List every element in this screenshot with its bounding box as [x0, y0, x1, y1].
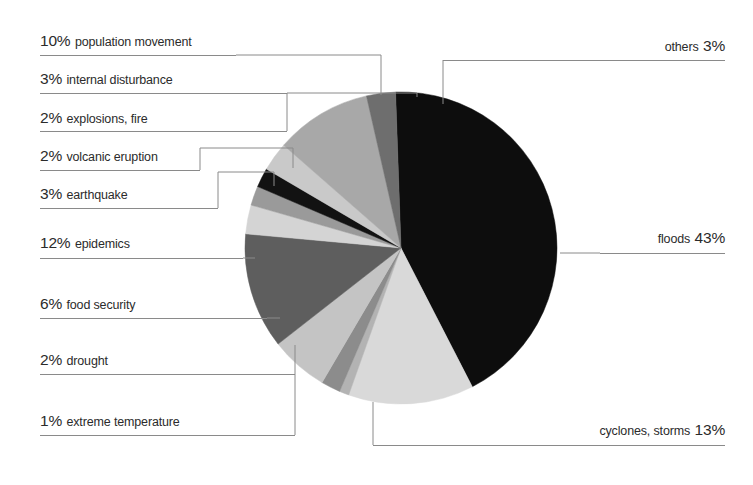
slice-percent: 3% — [40, 70, 62, 87]
slice-name: population movement — [75, 35, 192, 49]
leader-rule-internal-disturbance — [40, 93, 287, 94]
slice-name: others — [665, 40, 699, 54]
slice-percent: 2% — [40, 351, 62, 368]
slice-name: drought — [66, 354, 107, 368]
slice-percent: 2% — [40, 147, 62, 164]
slice-label-epidemics: 12% epidemics — [40, 235, 130, 251]
slice-label-drought: 2% drought — [40, 352, 108, 368]
slice-label-volcanic-eruption: 2% volcanic eruption — [40, 148, 158, 164]
slice-percent: 10% — [40, 32, 70, 49]
slice-label-cyclones-storms: cyclones, storms 13% — [599, 422, 725, 438]
slice-percent: 3% — [703, 37, 725, 54]
leader-rule-explosions-fire — [40, 131, 287, 132]
chart-page: 10% population movement 3% internal dist… — [0, 0, 753, 485]
slice-percent: 3% — [40, 185, 62, 202]
slice-name: explosions, fire — [66, 112, 147, 126]
slice-label-floods: floods 43% — [658, 230, 725, 246]
slice-label-earthquake: 3% earthquake — [40, 186, 128, 202]
slice-name: internal disturbance — [66, 73, 172, 87]
leader-rule-food-security — [40, 318, 267, 319]
leader-rule-earthquake — [40, 208, 218, 209]
slice-label-explosions-fire: 2% explosions, fire — [40, 110, 147, 126]
leader-rule-drought — [40, 374, 295, 375]
slice-name: food security — [66, 298, 135, 312]
slice-label-others: others 3% — [665, 38, 725, 54]
leader-rule-population-movement — [40, 55, 236, 56]
slice-percent: 6% — [40, 295, 62, 312]
slice-name: extreme temperature — [66, 415, 179, 429]
slice-percent: 13% — [695, 421, 725, 438]
slice-name: epidemics — [75, 237, 130, 251]
slice-percent: 43% — [695, 229, 725, 246]
slice-label-internal-disturbance: 3% internal disturbance — [40, 71, 173, 87]
leader-rule-epidemics — [40, 258, 243, 259]
leader-rule-floods — [600, 253, 725, 254]
slice-percent: 1% — [40, 412, 62, 429]
leader-rule-extreme-temperature — [40, 435, 295, 436]
slice-name: volcanic eruption — [66, 150, 157, 164]
slice-label-population-movement: 10% population movement — [40, 33, 192, 49]
slice-name: floods — [658, 232, 690, 246]
leader-rule-volcanic-eruption — [40, 170, 200, 171]
slice-percent: 12% — [40, 234, 70, 251]
slice-name: earthquake — [66, 188, 127, 202]
slice-label-food-security: 6% food security — [40, 296, 135, 312]
slice-percent: 2% — [40, 109, 62, 126]
leader-rule-cyclones-storms — [373, 445, 725, 446]
leader-rule-others — [443, 60, 725, 61]
slice-name: cyclones, storms — [599, 424, 690, 438]
slice-label-extreme-temperature: 1% extreme temperature — [40, 413, 180, 429]
